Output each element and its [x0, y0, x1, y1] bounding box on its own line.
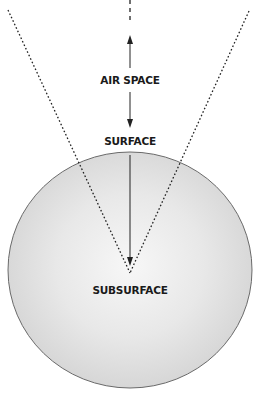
arrow-up-icon: [127, 35, 133, 68]
subsurface-label: SUBSURFACE: [2, 284, 256, 296]
diagram-graphics: [0, 0, 256, 395]
arrow-down-icon: [127, 92, 133, 128]
surface-label: SURFACE: [2, 135, 256, 147]
diagram-canvas: AIR SPACE SURFACE SUBSURFACE: [0, 0, 256, 395]
air-space-label: AIR SPACE: [2, 74, 256, 86]
